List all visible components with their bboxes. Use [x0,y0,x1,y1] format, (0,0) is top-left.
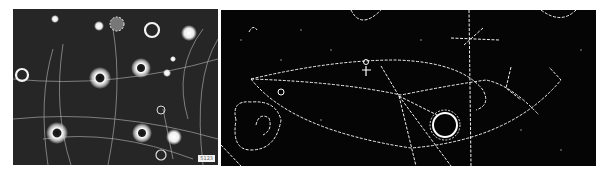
bubble-chamber-photo-right [221,10,596,166]
bubble-chamber-photo-left: 5123 [13,9,218,165]
tracks-left [13,9,218,165]
tracks-right [221,10,596,166]
corner-label: 5123 [198,155,215,162]
